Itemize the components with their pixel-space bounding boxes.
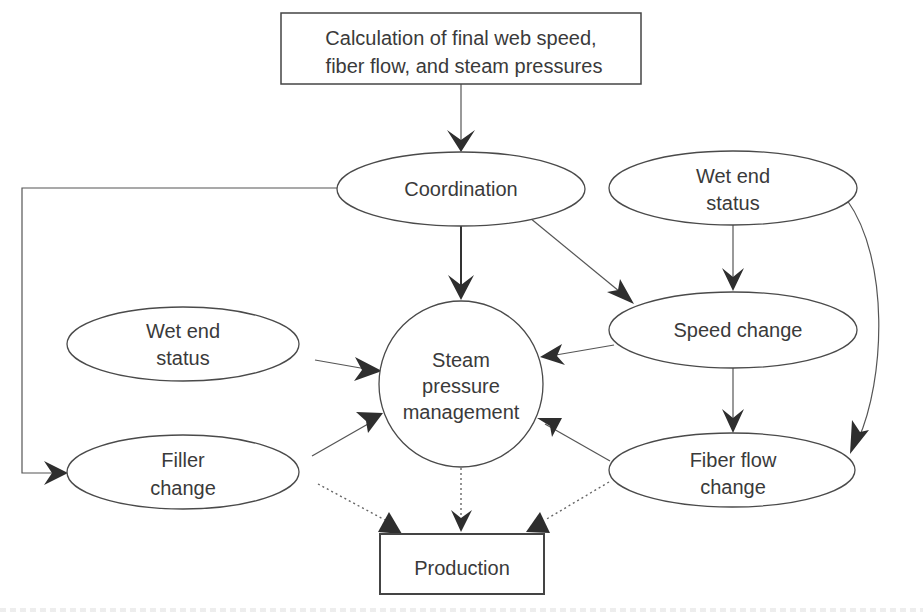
- node-steam-line3: management: [403, 401, 520, 423]
- node-fiber-flow-line2: change: [700, 476, 766, 498]
- node-speed-change: Speed change: [609, 292, 857, 368]
- node-filler-change: Filler change: [67, 435, 299, 509]
- node-steam-pressure-management: Steam pressure management: [379, 301, 543, 467]
- edge-filler-change-to-production: [318, 484, 385, 520]
- arrowhead-icon: [356, 412, 383, 433]
- edge-coordination-to-speed-change: [530, 218, 625, 296]
- node-wet-end-status-left: Wet end status: [67, 307, 299, 381]
- node-wet-end-right-line2: status: [706, 192, 759, 214]
- edge-filler-change-to-steam: [312, 420, 375, 456]
- node-calculation: Calculation of final web speed, fiber fl…: [281, 13, 641, 84]
- arrowhead-icon: [378, 512, 402, 534]
- arrowhead-icon: [850, 420, 869, 454]
- node-production: Production: [380, 534, 544, 594]
- node-filler-line2: change: [150, 477, 216, 499]
- arrowhead-icon: [354, 357, 382, 381]
- node-wet-end-left-line1: Wet end: [146, 320, 220, 342]
- node-fiber-flow-line1: Fiber flow: [690, 449, 777, 471]
- flow-diagram: Calculation of final web speed, fiber fl…: [0, 0, 923, 615]
- node-steam-line1: Steam: [432, 349, 490, 371]
- node-calculation-line1: Calculation of final web speed,: [325, 27, 596, 49]
- node-filler-line1: Filler: [161, 449, 205, 471]
- node-coordination-label: Coordination: [404, 178, 517, 200]
- node-wet-end-left-line2: status: [156, 347, 209, 369]
- node-wet-end-right-line1: Wet end: [696, 165, 770, 187]
- arrowhead-icon: [607, 279, 634, 304]
- node-fiber-flow-change: Fiber flow change: [609, 433, 855, 507]
- node-calculation-line2: fiber flow, and steam pressures: [326, 55, 603, 77]
- node-production-label: Production: [414, 557, 510, 579]
- scan-artifact-line: [0, 608, 923, 612]
- arrowhead-icon: [537, 418, 562, 437]
- node-wet-end-status-right: Wet end status: [609, 151, 857, 225]
- edge-fiber-flow-to-production: [545, 482, 609, 520]
- node-steam-line2: pressure: [422, 375, 500, 397]
- node-coordination: Coordination: [337, 152, 585, 226]
- node-speed-change-label: Speed change: [673, 319, 802, 341]
- arrowhead-icon: [526, 512, 550, 533]
